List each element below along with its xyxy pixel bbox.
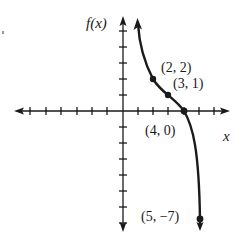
function-graph: f(x) x (2, 2) (3, 1) (4, 0) (5, −7) [0,0,241,232]
point-label-5-neg7: (5, −7) [141,209,180,225]
x-axis [17,107,226,115]
y-axis [119,20,127,228]
point-label-2-2: (2, 2) [161,60,192,76]
point-label-3-1: (3, 1) [173,76,204,92]
point-2-2 [150,76,156,82]
point-3-1 [165,92,171,98]
point-5-neg7 [197,216,204,223]
y-axis-label: f(x) [86,15,107,32]
x-axis-label: x [222,128,230,144]
scan-artifact [2,31,4,34]
point-4-0 [181,108,188,115]
point-label-4-0: (4, 0) [145,123,176,139]
